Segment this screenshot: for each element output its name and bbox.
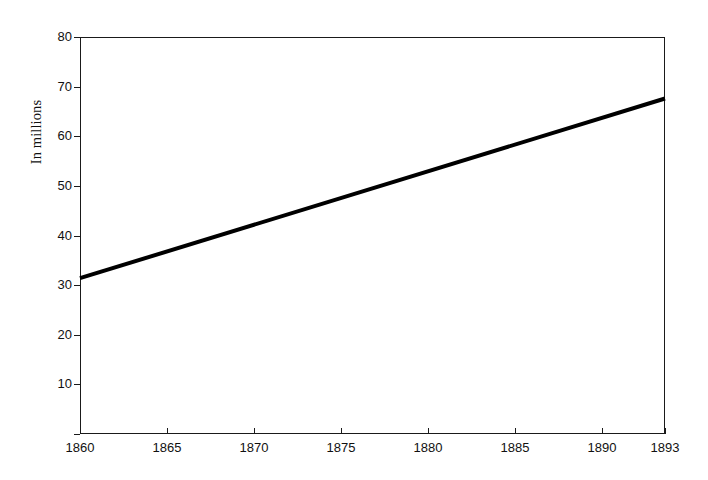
- data-series-layer: [80, 37, 665, 434]
- y-tick-label-text: 30: [40, 278, 72, 291]
- y-tick-label-text: 60: [40, 129, 72, 142]
- x-tick-label: 1865: [137, 441, 197, 454]
- y-tick-label-text: 10: [40, 377, 72, 390]
- x-tick-label: 1890: [572, 441, 632, 454]
- series-line: [80, 99, 665, 279]
- y-tick-label-text: 40: [40, 229, 72, 242]
- x-tick-label: 1870: [224, 441, 284, 454]
- line-chart: In millions 1020304050607080 18601865187…: [0, 0, 708, 480]
- x-tick-label: 1885: [485, 441, 545, 454]
- y-tick-label: 20: [40, 328, 72, 341]
- x-tick-label: 1875: [311, 441, 371, 454]
- y-tick-label: 70: [40, 80, 72, 93]
- y-tick-label-text: 70: [40, 80, 72, 93]
- x-tick-label: 1893: [635, 441, 695, 454]
- y-tick-label: 80: [40, 30, 72, 43]
- y-tick-label: 30: [40, 278, 72, 291]
- y-tick-label: 60: [40, 129, 72, 142]
- x-tick-label: 1860: [50, 441, 110, 454]
- y-tick-label: 10: [40, 377, 72, 390]
- y-tick-label-text: 80: [40, 30, 72, 43]
- y-tick-label: 40: [40, 229, 72, 242]
- y-tick-label: 50: [40, 179, 72, 192]
- x-tick-mark: [665, 428, 666, 434]
- y-tick-mark-baseline: [74, 434, 80, 435]
- x-tick-label: 1880: [398, 441, 458, 454]
- y-tick-label-text: 20: [40, 328, 72, 341]
- y-tick-label-text: 50: [40, 179, 72, 192]
